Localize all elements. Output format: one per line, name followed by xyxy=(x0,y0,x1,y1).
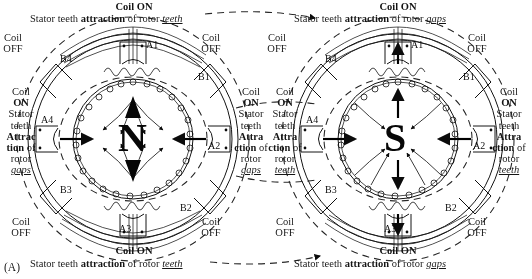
rp-left-l3: Stator xyxy=(262,108,308,119)
right-bottom-caption-mid: of rotor xyxy=(389,258,426,269)
diagram-canvas: Coil ON Stator teeth attraction of rotor… xyxy=(0,0,532,279)
left-pole-a3: A3 xyxy=(119,224,131,234)
right-pole-a4: A4 xyxy=(306,115,318,125)
left-bottom-coil-state: Coil ON xyxy=(88,245,180,256)
lc-tl-2: OFF xyxy=(0,43,28,54)
left-pole-b1: B1 xyxy=(198,72,210,82)
rp-right-l7: rotor xyxy=(486,153,532,164)
left-top-caption-bold: attraction xyxy=(81,13,125,24)
left-bottom-caption-bold: attraction xyxy=(81,258,125,269)
left-top-caption: Stator teeth attraction of rotor teeth xyxy=(30,13,183,25)
rp-right-l4: teeth xyxy=(486,120,532,131)
lp-left-l6: tion of xyxy=(0,142,44,153)
rc-tr-2: OFF xyxy=(462,43,492,54)
left-rotor-polarity: N xyxy=(118,118,147,158)
lc-br-1: Coil xyxy=(196,216,226,227)
rc-tl-1: Coil xyxy=(262,32,292,43)
lp-left-l4: teeth xyxy=(0,120,44,131)
rc-br-2: OFF xyxy=(462,227,492,238)
left-corner-tr: Coil OFF xyxy=(196,32,226,54)
lp-left-l5: Attrac xyxy=(0,131,44,142)
rp-left-l6a: ction xyxy=(268,142,290,153)
right-corner-tl: Coil OFF xyxy=(262,32,292,54)
left-top-caption-mid: of rotor xyxy=(125,13,162,24)
right-pole-b4: B4 xyxy=(325,54,337,64)
left-pole-a1: A1 xyxy=(146,40,158,50)
left-top-caption-em: teeth xyxy=(162,13,182,24)
left-bottom-caption-em: teeth xyxy=(162,258,182,269)
left-top-caption-pre: Stator teeth xyxy=(30,13,81,24)
rc-br-1: Coil xyxy=(462,216,492,227)
left-pole-a4: A4 xyxy=(41,115,53,125)
right-bottom-caption-em: gaps xyxy=(426,258,446,269)
right-corner-bl: Coil OFF xyxy=(270,216,300,238)
lp-left-l6b: of xyxy=(24,142,35,153)
rc-tr-1: Coil xyxy=(462,32,492,43)
left-bottom-caption-mid: of rotor xyxy=(125,258,162,269)
lp-right-l6a: ction xyxy=(234,142,256,153)
left-corner-bl: Coil OFF xyxy=(6,216,36,238)
right-top-caption-mid: of rotor xyxy=(389,13,426,24)
rp-left-l2: ON xyxy=(262,97,308,108)
right-rotor-polarity: S xyxy=(384,118,406,158)
left-top-coil-state: Coil ON xyxy=(88,1,180,12)
rp-left-l6b: of xyxy=(290,142,301,153)
lc-br-2: OFF xyxy=(196,227,226,238)
lc-tl-1: Coil xyxy=(0,32,28,43)
lp-left-l6a: tion xyxy=(7,142,25,153)
left-pole-a2: A2 xyxy=(208,141,220,151)
right-top-coil-state: Coil ON xyxy=(352,1,444,12)
right-bottom-coil-state: Coil ON xyxy=(352,245,444,256)
rp-left-l4: teeth xyxy=(262,120,308,131)
right-bottom-caption: Stator teeth attraction of rotor gaps xyxy=(294,258,446,270)
rp-right-l1: Coil xyxy=(486,86,532,97)
rc-bl-1: Coil xyxy=(270,216,300,227)
rp-right-l5: Attra xyxy=(486,131,532,142)
left-pole-b3: B3 xyxy=(60,185,72,195)
rp-left-l1: Coil xyxy=(262,86,308,97)
lc-bl-2: OFF xyxy=(6,227,36,238)
left-bottom-caption: Stator teeth attraction of rotor teeth xyxy=(30,258,183,270)
right-top-caption-pre: Stator teeth xyxy=(294,13,345,24)
right-pole-b1: B1 xyxy=(463,72,475,82)
figure-label: (A) xyxy=(4,261,20,273)
left-pole-b4: B4 xyxy=(60,54,72,64)
lc-tr-1: Coil xyxy=(196,32,226,43)
right-bottom-caption-bold: attraction xyxy=(345,258,389,269)
left-corner-tl: Coil OFF xyxy=(0,32,28,54)
right-top-caption-bold: attraction xyxy=(345,13,389,24)
lp-left-l8: gaps xyxy=(0,164,44,175)
lc-tr-2: OFF xyxy=(196,43,226,54)
lp-left-l1: Coil xyxy=(0,86,44,97)
right-corner-tr: Coil OFF xyxy=(462,32,492,54)
right-top-caption: Stator teeth attraction of rotor gaps xyxy=(294,13,446,25)
rc-tl-2: OFF xyxy=(262,43,292,54)
left-corner-br: Coil OFF xyxy=(196,216,226,238)
right-corner-br: Coil OFF xyxy=(462,216,492,238)
right-pole-a2: A2 xyxy=(473,141,485,151)
rp-left-l5: Attra xyxy=(262,131,308,142)
right-panel-right-caption: Coil ON Stator teeth Attra ction of roto… xyxy=(486,86,532,176)
rp-right-l6b: of xyxy=(514,142,525,153)
rp-left-l7: rotor xyxy=(262,153,308,164)
rp-left-l8: teeth xyxy=(262,164,308,175)
rp-right-l3: Stator xyxy=(486,108,532,119)
lp-left-l3: Stator xyxy=(0,108,44,119)
right-panel-left-caption: Coil ON Stator teeth Attra ction of roto… xyxy=(262,86,308,176)
rp-right-l6a: ction xyxy=(492,142,514,153)
rp-right-l8: teeth xyxy=(486,164,532,175)
lc-bl-1: Coil xyxy=(6,216,36,227)
left-pole-b2: B2 xyxy=(180,203,192,213)
rp-left-l6: ction of xyxy=(262,142,308,153)
right-pole-b3: B3 xyxy=(325,185,337,195)
lp-left-l7: rotor xyxy=(0,153,44,164)
lp-left-l2: ON xyxy=(0,97,44,108)
right-pole-a1: A1 xyxy=(411,40,423,50)
rp-right-l6: ction of xyxy=(486,142,532,153)
right-bottom-caption-pre: Stator teeth xyxy=(294,258,345,269)
right-top-caption-em: gaps xyxy=(426,13,446,24)
right-pole-b2: B2 xyxy=(445,203,457,213)
left-bottom-caption-pre: Stator teeth xyxy=(30,258,81,269)
rc-bl-2: OFF xyxy=(270,227,300,238)
right-pole-a3: A3 xyxy=(384,224,396,234)
